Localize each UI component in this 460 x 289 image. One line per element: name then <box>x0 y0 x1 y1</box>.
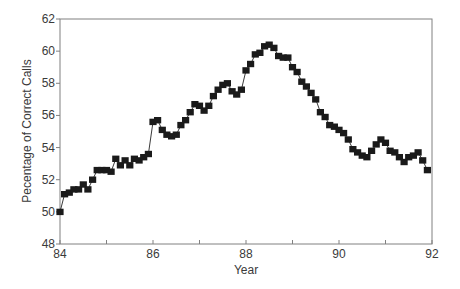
line-chart: 48505254565860628486889092 Year Pecentag… <box>0 0 460 289</box>
y-tick-label: 56 <box>42 108 56 122</box>
data-point-marker <box>84 186 91 192</box>
data-point-marker <box>145 151 152 157</box>
data-point-marker <box>363 154 370 160</box>
data-point-marker <box>303 83 310 89</box>
data-point-marker <box>284 54 291 60</box>
data-point-marker <box>89 177 96 183</box>
data-point-marker <box>247 61 254 67</box>
data-point-marker <box>205 103 212 109</box>
data-point-marker <box>126 162 133 168</box>
y-tick-label: 60 <box>42 44 56 58</box>
plot-frame <box>60 19 432 244</box>
data-point-marker <box>312 96 319 102</box>
x-tick-label: 92 <box>425 247 439 261</box>
axes <box>56 19 432 244</box>
data-point-marker <box>187 109 194 115</box>
data-point-marker <box>154 117 161 123</box>
x-tick-label: 90 <box>332 247 346 261</box>
data-series <box>56 42 431 216</box>
data-point-marker <box>345 136 352 142</box>
y-tick-label: 62 <box>42 12 56 26</box>
data-point-marker <box>173 132 180 138</box>
y-tick-label: 52 <box>42 173 56 187</box>
data-point-marker <box>56 209 63 215</box>
data-point-marker <box>270 45 277 51</box>
y-tick-label: 50 <box>42 205 56 219</box>
data-point-marker <box>108 169 115 175</box>
data-point-marker <box>210 93 217 99</box>
data-point-marker <box>368 148 375 154</box>
data-point-marker <box>294 69 301 75</box>
data-point-marker <box>242 67 249 73</box>
data-point-marker <box>224 80 231 86</box>
data-point-marker <box>182 117 189 123</box>
data-point-marker <box>424 167 431 173</box>
data-point-marker <box>340 130 347 136</box>
data-point-marker <box>256 50 263 56</box>
y-tick-label: 58 <box>42 76 56 90</box>
x-tick-label: 86 <box>146 247 160 261</box>
data-point-marker <box>419 157 426 163</box>
x-tick-label: 84 <box>53 247 67 261</box>
x-tick-label: 88 <box>239 247 253 261</box>
data-point-marker <box>238 87 245 93</box>
data-point-marker <box>382 140 389 146</box>
data-point-marker <box>322 114 329 120</box>
y-axis-title: Pecentage of Correct Calls <box>20 59 34 202</box>
y-tick-label: 54 <box>42 141 56 155</box>
x-axis-title: Year <box>234 263 258 277</box>
data-point-marker <box>112 156 119 162</box>
data-point-marker <box>308 90 315 96</box>
data-point-marker <box>415 149 422 155</box>
